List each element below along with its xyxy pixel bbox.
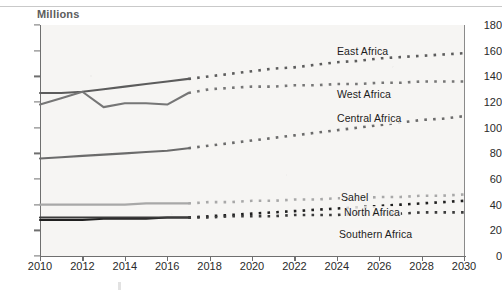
y-tick-label: 160: [468, 45, 502, 57]
y-axis-unit-label: Millions: [37, 8, 80, 20]
x-tick-mark: [337, 256, 338, 261]
y-tick-mark: [34, 50, 40, 51]
x-tick-label: 2010: [28, 260, 52, 272]
y-tick-mark: [34, 24, 40, 25]
x-tick-mark: [210, 256, 211, 261]
y-tick-label: 20: [468, 224, 502, 236]
x-tick-mark: [294, 256, 295, 261]
x-tick-mark: [252, 256, 253, 261]
y-tick-mark: [34, 230, 40, 231]
x-tick-label: 2012: [70, 260, 94, 272]
y-tick-mark: [34, 153, 40, 154]
y-tick-mark: [34, 101, 40, 102]
series-label-central-africa: Central Africa: [336, 112, 402, 124]
x-tick-label: 2020: [240, 260, 264, 272]
y-tick-mark: [34, 178, 40, 179]
x-tick-label: 2026: [367, 260, 391, 272]
y-tick-label: 40: [468, 199, 502, 211]
series-label-west-africa: West Africa: [336, 88, 392, 100]
x-tick-label: 2030: [452, 260, 476, 272]
x-tick-label: 2022: [282, 260, 306, 272]
x-tick-label: 2014: [113, 260, 137, 272]
series-label-southern-africa: Southern Africa: [338, 228, 413, 240]
y-tick-label: 120: [468, 96, 502, 108]
plot-right-border: [464, 25, 465, 257]
scan-artifact: [118, 282, 121, 290]
series-label-north-africa: North Africa: [343, 206, 401, 218]
chart-figure: Millions 020406080100120140160180 201020…: [0, 0, 502, 290]
series-label-east-africa: East Africa: [336, 45, 389, 57]
x-tick-mark: [125, 256, 126, 261]
top-divider-rule: [0, 6, 502, 7]
x-tick-label: 2016: [155, 260, 179, 272]
x-tick-mark: [40, 256, 41, 261]
plot-area: [40, 25, 465, 256]
y-tick-label: 80: [468, 147, 502, 159]
y-tick-mark: [34, 127, 40, 128]
series-label-sahel: Sahel: [340, 191, 369, 203]
x-tick-mark: [167, 256, 168, 261]
y-tick-label: 100: [468, 122, 502, 134]
x-tick-label: 2018: [197, 260, 221, 272]
x-tick-mark: [464, 256, 465, 261]
x-tick-mark: [379, 256, 380, 261]
y-tick-label: 180: [468, 19, 502, 31]
x-tick-label: 2024: [325, 260, 349, 272]
x-tick-label: 2028: [409, 260, 433, 272]
y-tick-label: 60: [468, 173, 502, 185]
y-tick-mark: [34, 204, 40, 205]
x-tick-mark: [82, 256, 83, 261]
x-tick-mark: [422, 256, 423, 261]
y-tick-label: 140: [468, 70, 502, 82]
y-tick-mark: [34, 76, 40, 77]
